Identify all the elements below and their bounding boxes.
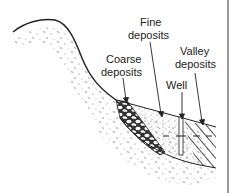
- coarse-deposits-label-line1: Coarse: [106, 53, 141, 65]
- coarse-deposits-label-line2: deposits: [101, 66, 142, 78]
- valley-deposits-label-line1: Valley: [180, 45, 210, 57]
- well-label: Well: [166, 79, 187, 91]
- fine-deposits-label-line1: Fine: [140, 16, 161, 28]
- fine-deposits-label-line2: deposits: [128, 29, 169, 41]
- alluvial-fan-diagram: Fine deposits Coarse deposits Valley dep…: [0, 0, 231, 193]
- valley-deposits-label-line2: deposits: [175, 58, 216, 70]
